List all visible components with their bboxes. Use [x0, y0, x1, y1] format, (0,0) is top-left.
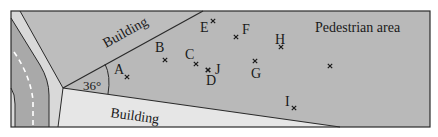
point-label-a: A	[114, 62, 125, 77]
point-label-j: J	[215, 62, 221, 77]
point-label-g: G	[251, 66, 261, 81]
point-label-b: B	[155, 40, 164, 55]
point-label-i: I	[285, 94, 290, 109]
pedestrian-area-diagram: Pedestrian area Building Building 36° AB…	[0, 0, 438, 137]
point-label-f: F	[242, 22, 250, 37]
point-label-c: C	[185, 47, 194, 62]
angle-label: 36°	[83, 78, 101, 93]
point-label-h: H	[275, 32, 285, 47]
point-label-e: E	[200, 20, 209, 35]
pedestrian-area-label: Pedestrian area	[315, 20, 401, 35]
